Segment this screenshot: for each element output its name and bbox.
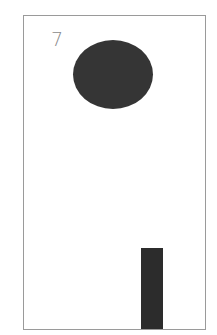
card-number-label: 7: [51, 30, 63, 49]
dark-ellipse-shape: [73, 40, 153, 109]
dark-vertical-bar-shape: [141, 248, 163, 329]
